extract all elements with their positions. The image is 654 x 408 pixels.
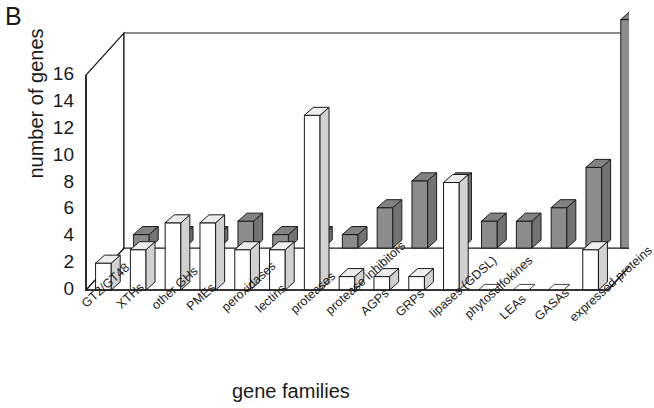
bar-back-14 [621,12,629,248]
y-tick-16: 16 [34,63,74,85]
bar-back-12 [551,200,576,248]
bar-front-10 [444,175,469,291]
bar-front-6 [304,107,329,290]
y-tick-0: 0 [34,278,74,300]
bar-front-3 [200,215,225,290]
bar-back-11 [516,213,541,248]
y-tick-6: 6 [34,197,74,219]
bar-back-10 [482,213,507,248]
y-tick-10: 10 [34,144,74,166]
bar-back-13 [586,159,611,248]
y-tick-8: 8 [34,171,74,193]
y-tick-12: 12 [34,117,74,139]
y-tick-2: 2 [34,251,74,273]
y-tick-4: 4 [34,224,74,246]
y-tick-14: 14 [34,90,74,112]
bar-back-8 [412,173,437,248]
